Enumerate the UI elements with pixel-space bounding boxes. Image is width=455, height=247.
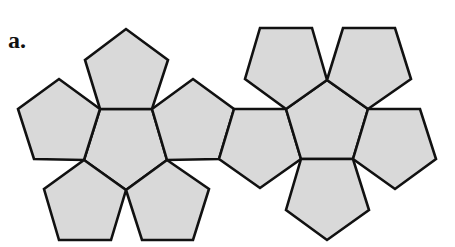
pentagon-right-right [353,109,436,189]
pentagon-left-top [85,29,168,109]
pentagon-left-upper-left [18,79,100,160]
dodecahedron-net-diagram [0,0,455,247]
pentagon-group [18,28,436,240]
figure-label: a. [8,27,26,54]
pentagon-right-bottom [286,159,369,240]
